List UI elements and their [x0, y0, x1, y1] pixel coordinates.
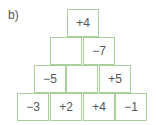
pyramid-cell-empty[interactable]: [50, 37, 82, 65]
exercise-label: b): [8, 8, 19, 22]
pyramid-cell: −7: [83, 37, 115, 65]
pyramid-cell: −1: [115, 93, 147, 121]
pyramid-cell: −3: [17, 93, 49, 121]
pyramid-cell-empty[interactable]: [66, 65, 98, 93]
pyramid-cell: +2: [50, 93, 82, 121]
pyramid-cell: +5: [99, 65, 131, 93]
pyramid-cell: +4: [67, 9, 99, 37]
pyramid-cell: +4: [83, 93, 115, 121]
pyramid-cell: −5: [34, 65, 66, 93]
